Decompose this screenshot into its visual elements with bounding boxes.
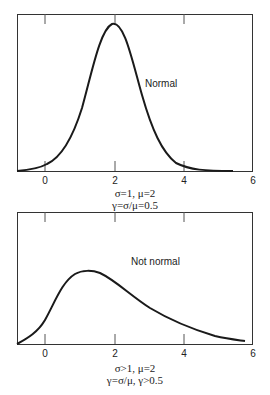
x-tick-label: 2 — [112, 175, 118, 186]
normal-curve — [17, 24, 233, 171]
plot-frame — [18, 15, 253, 172]
normal-distribution-chart: Normal 0 2 4 6 — [0, 0, 270, 200]
normal-caption-line-1: σ=1, μ=2 — [0, 187, 270, 199]
x-tick-label: 0 — [42, 175, 48, 186]
not-normal-plot-area — [0, 200, 270, 360]
normal-annotation: Normal — [145, 78, 177, 89]
normal-plot-area — [0, 0, 270, 200]
x-tick-label: 6 — [250, 348, 256, 359]
not-normal-curve — [17, 271, 245, 344]
not-normal-annotation: Not normal — [131, 256, 180, 267]
x-tick-label: 0 — [42, 348, 48, 359]
not-normal-caption-line-2: γ=σ/μ, γ>0.5 — [0, 374, 270, 386]
not-normal-caption-line-1: σ>1, μ=2 — [0, 362, 270, 374]
x-tick-label: 4 — [181, 348, 187, 359]
plot-frame — [18, 213, 253, 345]
x-tick-label: 6 — [250, 175, 256, 186]
x-tick-label: 2 — [112, 348, 118, 359]
x-tick-label: 4 — [181, 175, 187, 186]
